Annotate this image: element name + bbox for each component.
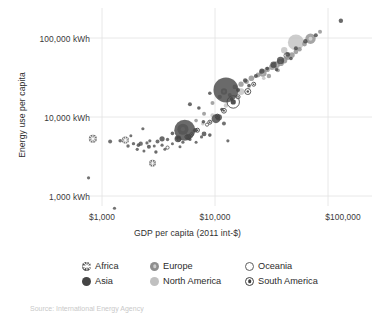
legend-item-europe[interactable]: Europe	[150, 262, 245, 271]
legend-label: Oceania	[258, 262, 292, 271]
x-axis-tick-label: $100,000	[312, 212, 374, 222]
africa-marker-icon	[82, 262, 91, 271]
y-axis-title: Energy use per capita	[17, 45, 27, 185]
asia-marker-icon	[82, 277, 91, 286]
legend-item-north-america[interactable]: North America	[150, 277, 245, 286]
x-axis-tick-label: $10,000	[185, 212, 245, 222]
legend-label: South America	[258, 277, 318, 286]
south-america-marker-icon	[245, 277, 254, 286]
legend-label: Africa	[95, 262, 119, 271]
x-axis-tick-label: $1,000	[72, 212, 132, 222]
scatter-chart: 100,000 kWh 10,000 kWh 1,000 kWh $1,000 …	[0, 0, 375, 314]
europe-marker-icon	[150, 262, 159, 271]
legend-item-south-america[interactable]: South America	[245, 277, 342, 286]
y-axis-tick-label: 100,000 kWh	[10, 34, 90, 44]
x-axis-title: GDP per capita (2011 int-$)	[0, 228, 375, 238]
legend-item-asia[interactable]: Asia	[82, 277, 150, 286]
legend-item-africa[interactable]: Africa	[82, 262, 150, 271]
north-america-marker-icon	[150, 277, 159, 286]
legend-label: North America	[163, 277, 221, 286]
legend-label: Asia	[95, 277, 113, 286]
y-axis-tick-label: 1,000 kWh	[10, 192, 90, 202]
legend-label: Europe	[163, 262, 193, 271]
chart-legend: Africa Europe Oceania Asia North America…	[82, 259, 342, 289]
footer-caption: Source: International Energy Agency	[30, 305, 144, 314]
oceania-marker-icon	[245, 262, 254, 271]
legend-item-oceania[interactable]: Oceania	[245, 262, 342, 271]
